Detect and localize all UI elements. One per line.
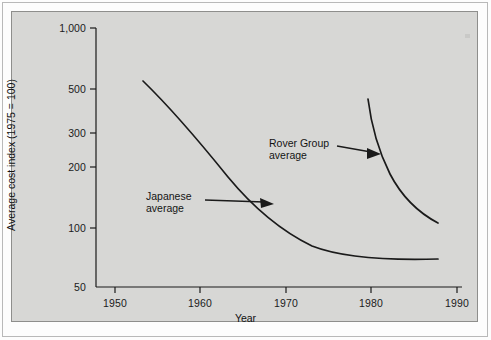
x-axis-title: Year <box>0 312 491 324</box>
series-line-rover-group-average <box>368 99 438 223</box>
annotation-japanese-line1: Japanese <box>146 191 192 203</box>
y-tick-label-200: 200 <box>28 161 86 173</box>
annotation-japanese-line2: average <box>146 203 192 215</box>
y-tick-label-1000: 1,000 <box>28 22 86 34</box>
annotation-rover-group-average: Rover Group average <box>269 138 329 161</box>
x-tick-label-1950: 1950 <box>85 297 145 309</box>
y-axis-title: Average cost index (1975 = 100) <box>5 45 17 265</box>
series-line-japanese-average <box>143 81 438 259</box>
annotation-rover-line1: Rover Group <box>269 138 329 150</box>
y-tick-label-100: 100 <box>28 222 86 234</box>
chart-figure: 1,000 500 300 200 100 50 1950 1960 1970 … <box>0 0 491 340</box>
x-axis-ticks <box>115 287 457 293</box>
annotation-arrow-rover-group <box>337 146 381 159</box>
x-tick-label-1990: 1990 <box>427 297 487 309</box>
y-tick-label-500: 500 <box>28 83 86 95</box>
y-tick-label-300: 300 <box>28 127 86 139</box>
x-tick-label-1980: 1980 <box>341 297 401 309</box>
x-tick-label-1960: 1960 <box>170 297 230 309</box>
annotation-rover-line2: average <box>269 150 329 162</box>
y-axis-ticks <box>90 28 96 228</box>
x-tick-label-1970: 1970 <box>256 297 316 309</box>
annotation-japanese-average: Japanese average <box>146 191 192 214</box>
y-tick-label-50: 50 <box>28 281 86 293</box>
annotation-arrow-japanese <box>205 198 274 208</box>
